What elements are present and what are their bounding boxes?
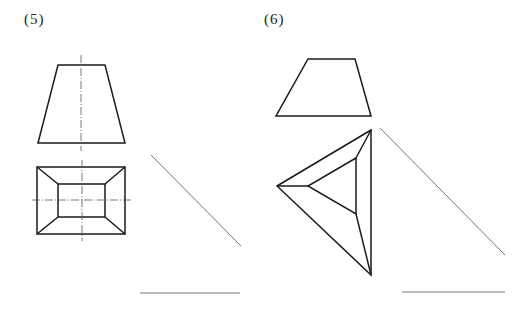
problem-6-front-view [276, 59, 371, 116]
problem-6-45deg-aux-line [380, 128, 505, 255]
problem-5-front-view [38, 65, 125, 143]
problem-5-top-view [37, 167, 125, 234]
problem-5-45deg-aux-line [151, 155, 241, 246]
drawing-canvas [0, 0, 532, 310]
problem-6-top-view [277, 130, 371, 275]
